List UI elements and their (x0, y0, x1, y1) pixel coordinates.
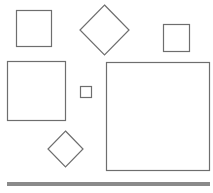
diamond-top-center (80, 5, 129, 55)
square-large-right (107, 63, 210, 171)
square-middle-left (8, 62, 66, 121)
square-top-right (164, 25, 190, 52)
shape-canvas (0, 0, 213, 193)
horizontal-bar (7, 182, 210, 186)
diamond-bottom-left (48, 131, 83, 167)
square-top-left (17, 11, 52, 47)
square-small-center (81, 87, 92, 98)
